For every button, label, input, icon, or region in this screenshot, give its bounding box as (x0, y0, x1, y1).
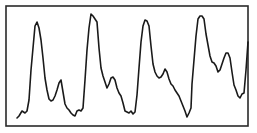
waveform-line (17, 14, 248, 118)
waveform-chart (0, 0, 257, 133)
chart-frame (6, 6, 248, 126)
